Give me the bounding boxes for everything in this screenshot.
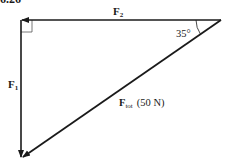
right-angle-mark: [21, 20, 32, 32]
force-diagram: 6.26 F2 F1 35° Ftot(50 N): [0, 0, 230, 163]
angle-label: 35°: [176, 28, 191, 39]
figure-number: 6.26: [0, 0, 21, 6]
label-ftot: Ftot(50 N): [119, 97, 165, 110]
vector-ftot: [23, 20, 221, 157]
label-f2: F2: [113, 5, 124, 19]
label-f1: F1: [8, 78, 19, 92]
angle-arc: [196, 20, 201, 34]
